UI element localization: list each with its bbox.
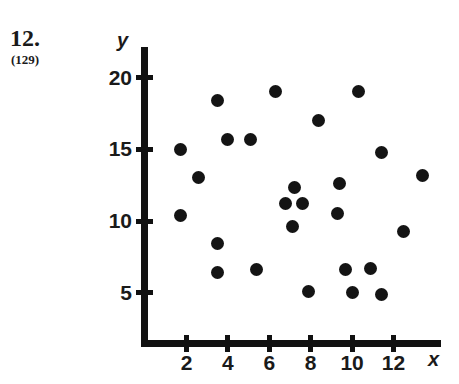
y-tick-label: 10 (86, 210, 132, 231)
y-tick-label: 20 (86, 67, 132, 88)
data-point (364, 262, 377, 275)
x-tick-mark (391, 335, 396, 352)
data-point (211, 94, 224, 107)
y-tick-mark (136, 290, 153, 295)
data-point (375, 288, 388, 301)
data-point (333, 177, 346, 190)
data-point (211, 237, 224, 250)
y-tick-label: 15 (86, 138, 132, 159)
data-point (174, 209, 187, 222)
data-point (288, 181, 301, 194)
y-tick-mark (136, 147, 153, 152)
y-axis-title: y (117, 30, 128, 50)
data-point (352, 85, 365, 98)
scatter-plot-figure: 12. (129) y x 5101520 24681012 (0, 0, 459, 384)
data-point (312, 114, 325, 127)
y-tick-mark (136, 75, 153, 80)
x-tick-label: 4 (206, 352, 250, 373)
x-tick-mark (184, 335, 189, 352)
data-point (296, 197, 309, 210)
plot-area: y x 5101520 24681012 (0, 0, 459, 384)
data-point (331, 207, 344, 220)
x-tick-label: 8 (289, 352, 333, 373)
data-point (279, 197, 292, 210)
x-tick-mark (267, 335, 272, 352)
data-point (221, 133, 234, 146)
y-tick-mark (136, 219, 153, 224)
data-point (375, 146, 388, 159)
data-point (269, 85, 282, 98)
y-tick-label: 5 (86, 282, 132, 303)
data-point (174, 143, 187, 156)
data-point (250, 263, 263, 276)
data-point (416, 169, 429, 182)
x-tick-label: 10 (330, 352, 374, 373)
data-point (244, 133, 257, 146)
data-point (302, 285, 315, 298)
x-tick-label: 6 (247, 352, 291, 373)
x-axis-title: x (428, 349, 439, 369)
x-tick-mark (350, 335, 355, 352)
x-tick-label: 12 (372, 352, 416, 373)
x-tick-label: 2 (165, 352, 209, 373)
y-axis-line (141, 47, 148, 347)
data-point (211, 266, 224, 279)
data-point (192, 171, 205, 184)
data-point (397, 225, 410, 238)
data-point (286, 220, 299, 233)
x-tick-mark (225, 335, 230, 352)
data-point (339, 263, 352, 276)
x-tick-mark (308, 335, 313, 352)
data-point (346, 286, 359, 299)
